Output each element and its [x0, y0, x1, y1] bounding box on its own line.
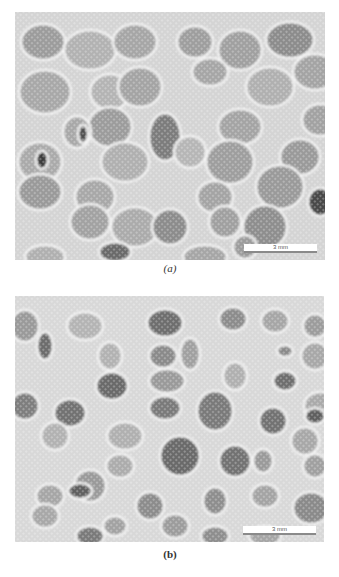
caption-a: (a) [140, 262, 200, 274]
scale-bar-b: 3 mm [243, 526, 316, 535]
micrograph-b [15, 296, 324, 542]
micrograph-a [15, 12, 325, 260]
caption-b: (b) [140, 548, 200, 560]
scale-bar-a: 3 mm [244, 244, 317, 253]
